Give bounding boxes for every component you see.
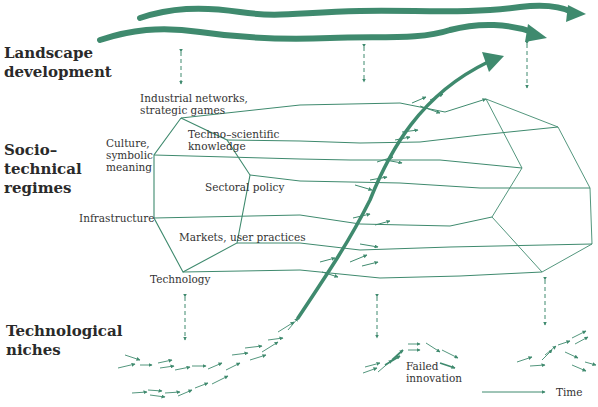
breakthrough-arrow [298, 52, 504, 318]
dimension-sectoral-policy: Sectoral policy [205, 181, 284, 193]
level-label-landscape: Landscape development [4, 44, 112, 82]
dimension-markets: Markets, user practices [179, 231, 306, 243]
dimension-techno-scientific: Techno–scientific knowledge [188, 128, 279, 152]
time-label: Time [556, 386, 583, 398]
dimension-technology: Technology [150, 273, 210, 285]
level-label-niches: Technological niches [6, 322, 122, 360]
level-label-regime: Socio– technical regimes [4, 141, 82, 198]
label-line: Failed [406, 360, 462, 372]
label-line: strategic games [140, 104, 248, 116]
level-label-line: Landscape [4, 44, 112, 63]
landscape-arrow-upper [140, 6, 572, 18]
dimension-industrial-networks: Industrial networks, strategic games [140, 92, 248, 116]
level-label-line: niches [6, 341, 122, 360]
landscape-arrow-lower [100, 25, 532, 40]
failed-innovation-label: Failed innovation [406, 360, 462, 384]
level-label-line: development [4, 63, 112, 82]
level-label-line: technical [4, 160, 82, 179]
level-label-line: Socio– [4, 141, 82, 160]
label-line: Industrial networks, [140, 92, 248, 104]
level-label-line: Technological [6, 322, 122, 341]
level-label-line: regimes [4, 179, 82, 198]
label-line: symbolic [106, 149, 153, 161]
label-line: Techno–scientific [188, 128, 279, 140]
dimension-culture: Culture, symbolic meaning [106, 137, 153, 173]
dimension-infrastructure: Infrastructure [79, 212, 155, 224]
label-line: Technology [150, 273, 210, 285]
label-line: meaning [106, 161, 153, 173]
label-line: knowledge [188, 140, 279, 152]
niche-variation-arrows [118, 318, 298, 397]
niche-right-arrows [517, 331, 596, 371]
label-line: Infrastructure [79, 212, 155, 224]
label-line: Sectoral policy [205, 181, 284, 193]
label-line: Culture, [106, 137, 153, 149]
label-line: Markets, user practices [179, 231, 306, 243]
label-line: innovation [406, 372, 462, 384]
landscape-trend-arrows [100, 5, 586, 42]
